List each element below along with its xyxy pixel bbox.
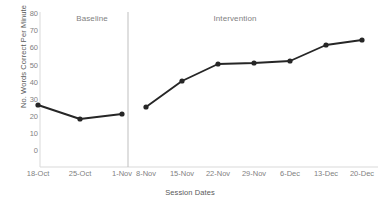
data-point-20-dec xyxy=(359,37,364,42)
data-point-22-nov xyxy=(215,61,220,66)
line-chart: No. Words Correct Per Minute 80 70 60 50… xyxy=(0,0,380,206)
x-axis-tick-18-oct: 18-Oct xyxy=(15,170,61,178)
data-point-25-oct xyxy=(77,116,82,121)
x-axis-title: Session Dates xyxy=(0,188,380,197)
data-point-6-dec xyxy=(287,58,292,63)
data-point-13-dec xyxy=(323,42,328,47)
intervention-series-line xyxy=(146,40,362,107)
x-axis-tick-25-oct: 25-Oct xyxy=(57,170,103,178)
data-point-15-nov xyxy=(179,78,184,83)
x-axis-tick-20-dec: 20-Dec xyxy=(339,170,380,178)
data-point-8-nov xyxy=(143,104,148,109)
data-point-1-nov xyxy=(119,111,124,116)
data-point-18-oct xyxy=(35,102,40,107)
data-point-29-nov xyxy=(251,60,256,65)
